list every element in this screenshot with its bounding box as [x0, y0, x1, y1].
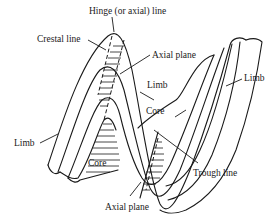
- label-crestal-line: Crestal line: [37, 34, 81, 44]
- fold-layers: [48, 34, 262, 213]
- label-limb-right: Limb: [244, 73, 265, 83]
- label-trough-line: Trough line: [193, 168, 237, 178]
- leader-hinge: [112, 17, 114, 32]
- leader-core-upper: [175, 110, 186, 117]
- core-upper-outline: [138, 55, 214, 128]
- leader-limb-center: [140, 92, 154, 100]
- axial-plane-upper: [98, 36, 124, 120]
- label-core-upper: Core: [146, 106, 164, 116]
- label-limb-center: Limb: [147, 80, 168, 90]
- label-hinge-line: Hinge (or axial) line: [89, 6, 166, 17]
- label-limb-left: Limb: [14, 138, 35, 148]
- label-axial-plane-bottom: Axial plane: [105, 202, 149, 212]
- leader-trough: [154, 130, 198, 163]
- axial-plane-lower: [140, 132, 164, 198]
- fold-diagram: Hinge (or axial) line Crestal line Axial…: [0, 0, 278, 223]
- leader-axial-plane-top: [120, 55, 150, 74]
- leader-axial-plane-bottom: [130, 182, 141, 196]
- fold-layer-right-outer: [160, 39, 262, 213]
- label-core-lower: Core: [88, 158, 106, 168]
- label-axial-plane-top: Axial plane: [152, 50, 196, 60]
